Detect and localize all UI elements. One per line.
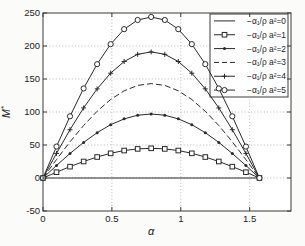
y-tick-label: -50	[26, 205, 40, 216]
y-tick-label: 200	[24, 40, 40, 51]
legend-label: −α₁/ρ a²=1	[247, 30, 286, 40]
legend-label: −α₁/ρ a²=3	[247, 57, 286, 67]
legend-label: −α₁/ρ a²=4	[247, 71, 286, 81]
x-axis-label: α	[148, 225, 155, 237]
x-tick-label: 1	[178, 213, 183, 224]
legend-label: −α₁/ρ a²=0	[247, 16, 286, 26]
y-tick-label: 50	[29, 139, 40, 150]
x-tick-label: 0.5	[105, 213, 118, 224]
y-tick-label: 250	[24, 7, 40, 18]
y-tick-label: 100	[24, 106, 40, 117]
chart-svg: −α₁/ρ a²=0−α₁/ρ a²=1−α₁/ρ a²=2−α₁/ρ a²=3…	[0, 0, 305, 246]
legend: −α₁/ρ a²=0−α₁/ρ a²=1−α₁/ρ a²=2−α₁/ρ a²=3…	[210, 14, 288, 97]
legend-label: −α₁/ρ a²=2	[247, 44, 286, 54]
y-tick-label: 150	[24, 73, 40, 84]
figure: −α₁/ρ a²=0−α₁/ρ a²=1−α₁/ρ a²=2−α₁/ρ a²=3…	[0, 0, 305, 246]
x-tick-label: 0	[40, 213, 45, 224]
legend-label: −α₁/ρ a²=5	[247, 85, 286, 95]
x-tick-label: 1.5	[243, 213, 256, 224]
y-tick-label: 0	[35, 172, 40, 183]
